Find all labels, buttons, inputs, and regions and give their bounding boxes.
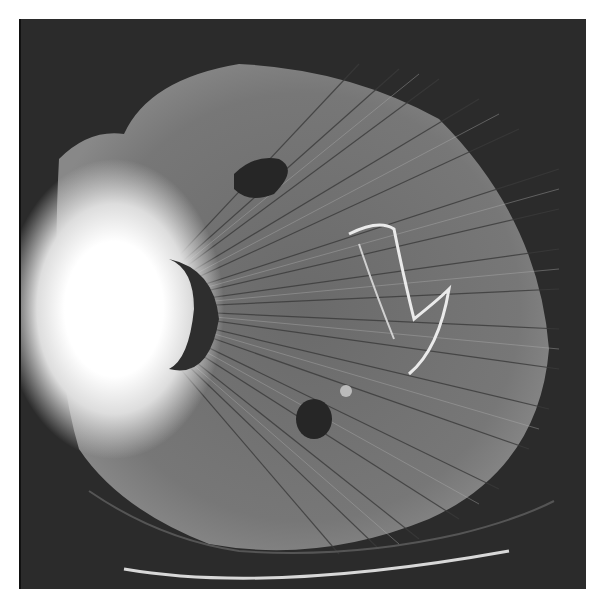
frame-edge bbox=[19, 19, 21, 589]
gas-pocket bbox=[296, 399, 332, 439]
ct-slice-drawing bbox=[19, 19, 586, 589]
vessel bbox=[340, 385, 352, 397]
ct-scan-image bbox=[19, 19, 586, 589]
ct-table bbox=[124, 551, 509, 578]
